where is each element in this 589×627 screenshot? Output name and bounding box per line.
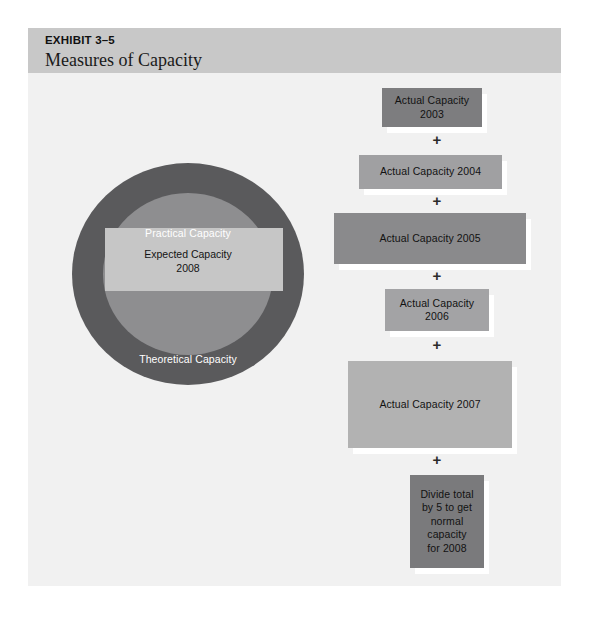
actual-capacity-2004-text: Actual Capacity 2004	[380, 165, 481, 179]
plus-operator-5: +	[426, 452, 448, 468]
actual-capacity-2006-line1: Actual Capacity	[400, 297, 474, 311]
divide-total-box-line4: capacity	[420, 528, 473, 542]
actual-capacity-2003-line1: Actual Capacity	[395, 94, 469, 108]
exhibit-figure-panel: EXHIBIT 3–5 Measures of Capacity Practic…	[28, 28, 561, 586]
plus-operator-3: +	[426, 268, 448, 284]
divide-total-box-line5: for 2008	[420, 542, 473, 556]
divide-total-box: Divide totalby 5 to getnormalcapacityfor…	[410, 475, 484, 568]
divide-total-box-line1: Divide total	[420, 488, 473, 502]
plus-operator-1: +	[426, 132, 448, 148]
actual-capacity-2003-line2: 2003	[395, 108, 469, 122]
actual-capacity-2006-text: Actual Capacity2006	[400, 297, 474, 324]
capacity-sum-flow: Actual Capacity2003Actual Capacity 2004A…	[28, 28, 561, 586]
actual-capacity-2007: Actual Capacity 2007	[348, 361, 512, 448]
actual-capacity-2007-text: Actual Capacity 2007	[379, 398, 480, 412]
actual-capacity-2005-text: Actual Capacity 2005	[379, 232, 480, 246]
actual-capacity-2005: Actual Capacity 2005	[334, 213, 526, 264]
divide-total-box-line3: normal	[420, 515, 473, 529]
actual-capacity-2003: Actual Capacity2003	[382, 88, 482, 127]
actual-capacity-2005-line1: Actual Capacity 2005	[379, 232, 480, 246]
actual-capacity-2003-text: Actual Capacity2003	[395, 94, 469, 121]
divide-total-box-line2: by 5 to get	[420, 501, 473, 515]
plus-operator-4: +	[426, 337, 448, 353]
actual-capacity-2007-line1: Actual Capacity 2007	[379, 398, 480, 412]
actual-capacity-2006: Actual Capacity2006	[385, 289, 489, 331]
actual-capacity-2004: Actual Capacity 2004	[359, 155, 502, 189]
divide-total-box-text: Divide totalby 5 to getnormalcapacityfor…	[420, 488, 473, 556]
actual-capacity-2006-line2: 2006	[400, 310, 474, 324]
plus-operator-2: +	[426, 193, 448, 209]
actual-capacity-2004-line1: Actual Capacity 2004	[380, 165, 481, 179]
